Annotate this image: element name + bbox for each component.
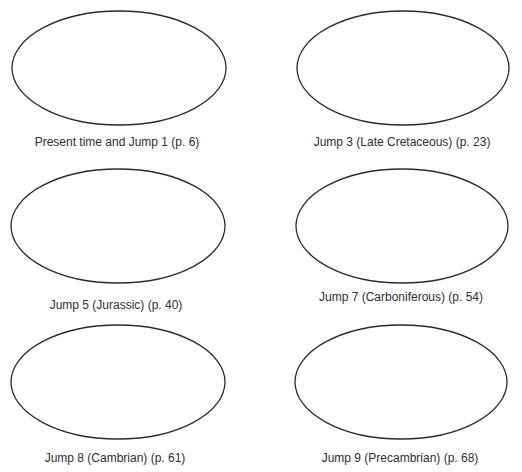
ellipse-present-time [12,11,226,125]
ellipse-jump-5 [11,169,225,283]
ellipse-jump-9 [295,325,507,439]
label-jump-9: Jump 9 (Precambrian) (p. 68) [322,451,479,465]
ellipse-jump-8 [11,325,225,439]
ellipse-jump-7 [296,169,508,283]
label-present-time: Present time and Jump 1 (p. 6) [35,135,200,149]
label-jump-3: Jump 3 (Late Cretaceous) (p. 23) [314,135,491,149]
ellipse-layer [0,0,522,472]
label-jump-8: Jump 8 (Cambrian) (p. 61) [45,451,186,465]
label-jump-7: Jump 7 (Carboniferous) (p. 54) [319,290,483,304]
ellipse-jump-3 [297,11,509,125]
diagram-canvas: Present time and Jump 1 (p. 6) Jump 3 (L… [0,0,522,472]
label-jump-5: Jump 5 (Jurassic) (p. 40) [50,298,183,312]
